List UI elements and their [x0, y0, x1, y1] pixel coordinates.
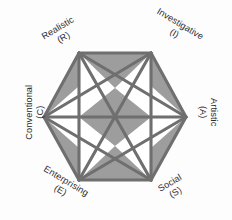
vertex-label-artistic: Artistic (A) — [197, 79, 219, 145]
vertex-label-artistic-name: Artistic — [208, 79, 219, 145]
vertex-label-conventional: Conventional (C) — [24, 67, 46, 157]
vertex-label-conventional-name: Conventional — [24, 67, 35, 157]
vertex-label-artistic-code: (A) — [197, 79, 208, 145]
riasec-hexagon-figure: Realistic (R) Investigative (I) Artistic… — [0, 0, 232, 220]
vertex-label-conventional-code: (C) — [35, 67, 46, 157]
